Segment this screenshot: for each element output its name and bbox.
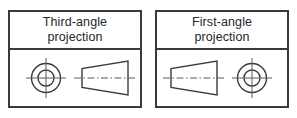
panel-third-angle-title: Third-angle projection (43, 15, 107, 45)
panel-third-angle-symbol-area (10, 50, 140, 106)
panel-third-angle: Third-angle projection (8, 10, 142, 108)
concentric-circles-icon (26, 58, 66, 98)
projection-symbols-figure: Third-angle projection (0, 0, 297, 118)
concentric-circles-icon (232, 58, 272, 98)
truncated-cone-icon (74, 61, 136, 95)
truncated-cone-icon (163, 61, 225, 95)
panel-first-angle-title: First-angle projection (192, 15, 252, 45)
first-angle-symbol-svg (157, 50, 287, 106)
panel-first-angle-symbol-area (157, 50, 287, 106)
panel-first-angle: First-angle projection (155, 10, 289, 108)
panel-first-angle-title-area: First-angle projection (157, 12, 287, 50)
third-angle-symbol-svg (10, 50, 140, 106)
panel-third-angle-title-area: Third-angle projection (10, 12, 140, 50)
